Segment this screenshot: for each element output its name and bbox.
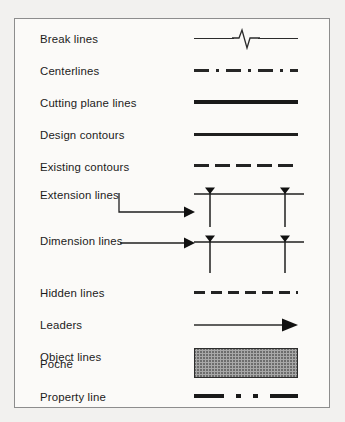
design-contour-rule-icon bbox=[194, 133, 298, 136]
legend-row-design-contours: Design contours bbox=[15, 119, 329, 151]
row-label-property-line: Property line bbox=[40, 391, 106, 403]
property-line-sample bbox=[194, 381, 298, 413]
legend-row-break-lines: Break lines bbox=[15, 23, 329, 55]
row-label-dimension-lines: Dimension lines bbox=[40, 235, 123, 247]
leader-arrow-icon bbox=[194, 309, 298, 341]
row-label-centerlines: Centerlines bbox=[40, 65, 99, 77]
drafting-legend-panel: Break lines Centerlines Cutting plane li… bbox=[14, 18, 330, 408]
centerline-dash-dot-icon bbox=[194, 69, 298, 72]
legend-row-cutting-plane-lines: Cutting plane lines bbox=[15, 87, 329, 119]
row-label-cutting-plane-lines: Cutting plane lines bbox=[40, 97, 137, 109]
row-label-leaders: Leaders bbox=[40, 319, 82, 331]
break-line-left-segment bbox=[194, 38, 234, 39]
row-label-break-lines: Break lines bbox=[40, 33, 98, 45]
cutting-plane-heavy-rule-icon bbox=[194, 100, 298, 104]
dimension-line-icon bbox=[194, 231, 304, 277]
centerline-sample bbox=[194, 55, 298, 87]
legend-row-centerlines: Centerlines bbox=[15, 55, 329, 87]
existing-contour-dashed-icon bbox=[194, 164, 298, 167]
cutting-plane-line-sample bbox=[194, 87, 298, 119]
legend-row-leaders: Leaders bbox=[15, 309, 329, 341]
legend-row-dimension-lines: Dimension lines bbox=[15, 231, 329, 277]
legend-row-poche: Poché bbox=[15, 347, 329, 381]
design-contour-line-sample bbox=[194, 119, 298, 151]
poche-fill-swatch bbox=[194, 347, 298, 381]
break-line-right-segment bbox=[258, 38, 298, 39]
legend-row-hidden-lines: Hidden lines bbox=[15, 277, 329, 309]
break-line-sample bbox=[194, 23, 298, 55]
legend-row-extension-lines: Extension lines bbox=[15, 183, 329, 229]
hidden-line-sample bbox=[194, 277, 298, 309]
row-label-extension-lines: Extension lines bbox=[40, 189, 119, 201]
hidden-line-dashed-icon bbox=[194, 291, 298, 294]
poche-stipple-fill-icon bbox=[194, 348, 298, 378]
legend-row-existing-contours: Existing contours bbox=[15, 151, 329, 183]
extension-line-sample bbox=[194, 183, 298, 229]
row-label-poche: Poché bbox=[40, 358, 73, 370]
leader-line-sample bbox=[194, 309, 298, 341]
row-label-hidden-lines: Hidden lines bbox=[40, 287, 105, 299]
break-line-zigzag-icon bbox=[232, 28, 260, 50]
property-line-dash-dot-dot-icon bbox=[194, 394, 298, 398]
row-label-design-contours: Design contours bbox=[40, 129, 125, 141]
legend-row-property-line-content: Property line bbox=[15, 381, 329, 413]
existing-contour-line-sample bbox=[194, 151, 298, 183]
legend-row-list: Break lines Centerlines Cutting plane li… bbox=[15, 19, 329, 407]
extension-line-dimension-icon bbox=[194, 183, 304, 229]
dimension-line-sample bbox=[194, 231, 298, 277]
row-label-existing-contours: Existing contours bbox=[40, 161, 129, 173]
